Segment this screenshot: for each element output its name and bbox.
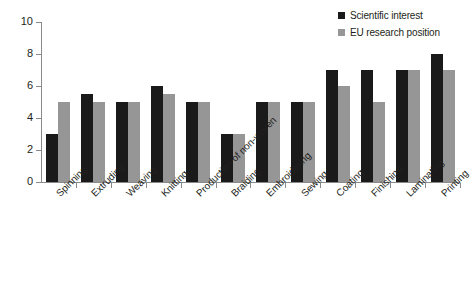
bar [46, 134, 58, 182]
y-axis-tick-label: 0 [3, 176, 33, 187]
y-axis-tick-label-wrap: 4 [0, 118, 33, 119]
y-axis-tick-label: 6 [3, 80, 33, 91]
bar [58, 102, 70, 182]
bar [186, 102, 198, 182]
y-axis-tick [36, 182, 41, 183]
bar [326, 70, 338, 182]
plot-area [41, 22, 460, 182]
y-axis-tick-label-wrap: 8 [0, 54, 33, 55]
bar [93, 102, 105, 182]
y-axis-tick-label-wrap: 10 [0, 22, 33, 23]
y-axis-tick-label: 8 [3, 48, 33, 59]
legend-label: Scientific interest [350, 10, 423, 21]
y-axis-tick-label-wrap: 6 [0, 86, 33, 87]
legend-entry-scientific-interest: Scientific interest [338, 9, 440, 22]
bar [338, 86, 350, 182]
legend-swatch-icon [338, 12, 345, 19]
bar-chart: Scientific interest EU research position… [0, 0, 474, 298]
bar [373, 102, 385, 182]
bar [128, 102, 140, 182]
y-axis-tick-label-wrap: 0 [0, 182, 33, 183]
bar [163, 94, 175, 182]
y-axis-tick-label-wrap: 2 [0, 150, 33, 151]
bar [198, 102, 210, 182]
bar [361, 70, 373, 182]
y-axis-tick-label: 10 [3, 16, 33, 27]
y-axis-tick-label: 4 [3, 112, 33, 123]
bar [408, 70, 420, 182]
y-axis-tick-label: 2 [3, 144, 33, 155]
bar [303, 102, 315, 182]
